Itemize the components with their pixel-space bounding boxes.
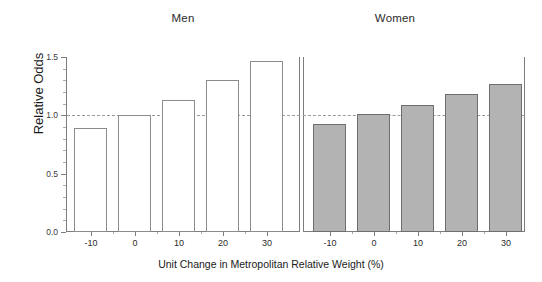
- x-tick-mark: [223, 232, 224, 236]
- y-tick-mark: [61, 174, 66, 175]
- x-tick-minor: [484, 232, 485, 234]
- y-tick-label-wrap: 1.5: [12, 52, 58, 62]
- y-tick-mark: [61, 115, 66, 116]
- y-tick-minor: [63, 69, 66, 70]
- x-tick-label: 30: [247, 238, 287, 248]
- bar-women-30: [489, 84, 522, 232]
- x-tick-mark: [462, 232, 463, 236]
- x-tick-minor: [352, 232, 353, 234]
- bar-men-20: [206, 80, 239, 232]
- x-tick-label: 0: [354, 238, 394, 248]
- y-tick-label: 0.5: [14, 169, 58, 179]
- bar-men--10: [74, 128, 107, 232]
- bar-women-20: [445, 94, 478, 232]
- bar-women-10: [401, 105, 434, 232]
- y-tick-label-wrap: 1.0: [12, 110, 58, 120]
- x-tick-minor: [245, 232, 246, 234]
- x-axis-label: Unit Change in Metropolitan Relative Wei…: [0, 258, 542, 270]
- bar-group-men: [67, 57, 300, 232]
- y-tick-minor: [63, 220, 66, 221]
- x-tick-mark: [330, 232, 331, 236]
- bar-men-30: [250, 61, 283, 233]
- x-tick-label: 20: [203, 238, 243, 248]
- panel-men: [67, 57, 300, 232]
- y-tick-minor: [63, 197, 66, 198]
- x-tick-label: 0: [115, 238, 155, 248]
- y-tick-minor: [63, 104, 66, 105]
- x-tick-minor: [157, 232, 158, 234]
- bar-women-0: [357, 114, 390, 232]
- y-tick-minor: [63, 127, 66, 128]
- x-tick-mark: [506, 232, 507, 236]
- y-tick-minor: [63, 150, 66, 151]
- y-tick-label-wrap: 0.5: [12, 169, 58, 179]
- y-tick-minor: [63, 185, 66, 186]
- x-tick-minor: [113, 232, 114, 234]
- relative-odds-bar-chart: Men Women Relative Odds 0.00.51.01.5 -10…: [0, 0, 542, 282]
- bar-group-women: [303, 57, 525, 232]
- x-tick-mark: [267, 232, 268, 236]
- y-tick-minor: [63, 209, 66, 210]
- y-tick-label: 1.5: [14, 52, 58, 62]
- y-tick-label: 0.0: [14, 227, 58, 237]
- x-tick-label: 30: [486, 238, 526, 248]
- x-tick-label: -10: [310, 238, 350, 248]
- x-tick-mark: [418, 232, 419, 236]
- bar-men-10: [162, 100, 195, 232]
- x-tick-mark: [374, 232, 375, 236]
- y-tick-mark: [61, 232, 66, 233]
- panel-women: [303, 57, 525, 232]
- panel-title-men: Men: [128, 12, 238, 24]
- bar-women--10: [313, 124, 346, 233]
- x-tick-mark: [179, 232, 180, 236]
- y-tick-minor: [63, 80, 66, 81]
- x-tick-minor: [396, 232, 397, 234]
- x-tick-minor: [440, 232, 441, 234]
- bar-men-0: [118, 115, 151, 232]
- x-tick-minor: [201, 232, 202, 234]
- y-tick-minor: [63, 162, 66, 163]
- x-tick-mark: [135, 232, 136, 236]
- y-tick-minor: [63, 92, 66, 93]
- x-tick-mark: [91, 232, 92, 236]
- panel-title-women: Women: [330, 12, 460, 24]
- x-tick-label: 10: [159, 238, 199, 248]
- x-tick-label: -10: [71, 238, 111, 248]
- y-tick-label: 1.0: [14, 110, 58, 120]
- y-tick-mark: [61, 57, 66, 58]
- y-tick-label-wrap: 0.0: [12, 227, 58, 237]
- y-tick-minor: [63, 139, 66, 140]
- x-tick-label: 10: [398, 238, 438, 248]
- x-tick-label: 20: [442, 238, 482, 248]
- y-axis-label: Relative Odds: [31, 14, 46, 174]
